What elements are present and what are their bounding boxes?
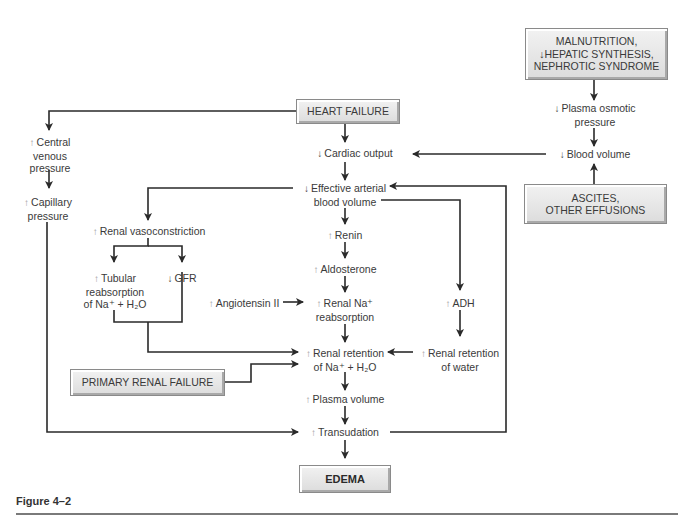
increase-arrow-icon: ↑ (328, 230, 333, 241)
decrease-arrow-icon: ↓ (554, 103, 559, 114)
increase-arrow-icon: ↑ (313, 264, 318, 275)
increase-arrow-icon: ↑ (306, 348, 311, 359)
heart-failure-box: HEART FAILURE (296, 99, 400, 124)
tubular-reabsorption-label: ↑Tubular reabsorption of Na⁺ + H₂O (80, 272, 150, 311)
renal-vasoconstriction-label: ↑Renal vasoconstriction (84, 225, 214, 239)
increase-arrow-icon: ↑ (93, 226, 98, 237)
increase-arrow-icon: ↑ (311, 427, 316, 438)
increase-arrow-icon: ↑ (24, 197, 29, 208)
malnutrition-line-3: NEPHROTIC SYNDROME (534, 60, 659, 73)
renal-na-reabsorption-label: ↑Renal Na⁺ reabsorption (305, 297, 385, 323)
renin-label: ↑Renin (315, 229, 375, 243)
adh-label: ↑ADH (435, 297, 485, 311)
decrease-arrow-icon: ↓ (317, 148, 322, 159)
plasma-volume-label: ↑Plasma volume (300, 393, 390, 407)
ascites-line-2: OTHER EFFUSIONS (546, 204, 646, 217)
caption-divider (16, 513, 678, 515)
increase-arrow-icon: ↑ (421, 348, 426, 359)
malnutrition-line-1: MALNUTRITION, (556, 35, 638, 48)
increase-arrow-icon: ↑ (317, 298, 322, 309)
edema-box: EDEMA (299, 465, 391, 493)
increase-arrow-icon: ↑ (209, 298, 214, 309)
decrease-arrow-icon: ↓ (304, 183, 309, 194)
increase-arrow-icon: ↑ (306, 394, 311, 405)
angiotensin-ii-label: ↑Angiotensin II (205, 297, 283, 311)
capillary-pressure-label: ↑Capillary pressure (18, 196, 78, 222)
malnutrition-line-2: ↓HEPATIC SYNTHESIS, (539, 48, 654, 61)
effective-arterial-blood-volume-label: ↓Effective arterial blood volume (297, 182, 393, 208)
increase-arrow-icon: ↑ (445, 298, 450, 309)
renal-retention-na-h2o-label: ↑Renal retention of Na⁺ + H₂O (300, 347, 390, 373)
transudation-label: ↑Transudation (302, 426, 388, 440)
central-venous-pressure-label: ↑Central venous pressure (20, 136, 80, 175)
plasma-osmotic-pressure-label: ↓Plasma osmotic pressure (550, 102, 640, 128)
renal-retention-water-label: ↑Renal retention of water (415, 347, 505, 373)
blood-volume-label: ↓Blood volume (550, 148, 640, 162)
increase-arrow-icon: ↑ (94, 273, 99, 284)
increase-arrow-icon: ↑ (30, 137, 35, 148)
ascites-box: ASCITES, OTHER EFFUSIONS (524, 184, 667, 224)
cardiac-output-label: ↓Cardiac output (300, 147, 410, 161)
decrease-arrow-icon: ↓ (560, 149, 565, 160)
gfr-label: ↓GFR (160, 272, 204, 286)
ascites-line-1: ASCITES, (572, 192, 620, 205)
malnutrition-box: MALNUTRITION, ↓HEPATIC SYNTHESIS, NEPHRO… (525, 28, 668, 80)
aldosterone-label: ↑Aldosterone (305, 263, 385, 277)
primary-renal-failure-box: PRIMARY RENAL FAILURE (70, 369, 225, 396)
decrease-arrow-icon: ↓ (167, 273, 172, 284)
figure-caption: Figure 4–2 (16, 495, 71, 507)
